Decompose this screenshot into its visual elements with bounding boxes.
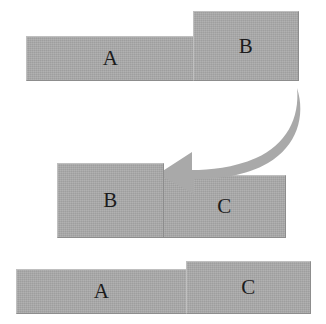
block-label: B xyxy=(239,36,254,57)
top-row-block-b: B xyxy=(193,11,299,81)
block-label: A xyxy=(103,48,119,69)
bottom-row-block-a: A xyxy=(16,269,187,314)
block-label: C xyxy=(241,277,256,298)
block-label: B xyxy=(103,190,118,211)
middle-row-block-c: C xyxy=(163,175,286,238)
block-label: A xyxy=(94,281,110,302)
middle-row-block-b: B xyxy=(57,163,164,238)
diagram-canvas: A B B C A C xyxy=(0,0,326,324)
top-row-block-a: A xyxy=(26,36,195,81)
bottom-row-block-c: C xyxy=(186,261,311,314)
block-label: C xyxy=(217,196,232,217)
